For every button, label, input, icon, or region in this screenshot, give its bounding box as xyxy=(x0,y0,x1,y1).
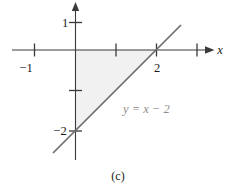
coordinate-plane-svg: −1 2 1 −2 x y = x − 2 xyxy=(0,0,236,192)
x-axis-arrow-icon xyxy=(205,46,215,54)
y-tick-label-neg2: −2 xyxy=(53,124,66,138)
y-axis-arrow-icon xyxy=(72,2,79,11)
figure-caption: (c) xyxy=(0,169,236,184)
graph-figure: −1 2 1 −2 x y = x − 2 xyxy=(0,0,236,192)
equation-annotation: y = x − 2 xyxy=(121,102,170,116)
x-tick-label-2: 2 xyxy=(154,61,160,75)
x-tick-label-neg1: −1 xyxy=(19,61,32,75)
y-tick-label-1: 1 xyxy=(62,16,68,30)
line-y-equals-x-minus-2 xyxy=(53,25,181,153)
x-axis-label: x xyxy=(216,43,223,57)
